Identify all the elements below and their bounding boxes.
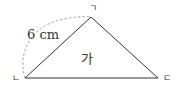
shape-name-label: 가 [81,51,93,66]
vertex-label-top: ㄱ [89,3,97,13]
vertex-label-bottom-right: ㄷ [163,73,171,83]
triangle-diagram: 6 cm 가 ㄱ ㄴ ㄷ [0,0,177,102]
side-length-label: 6 cm [27,27,59,42]
vertex-label-bottom-left: ㄴ [12,73,20,83]
